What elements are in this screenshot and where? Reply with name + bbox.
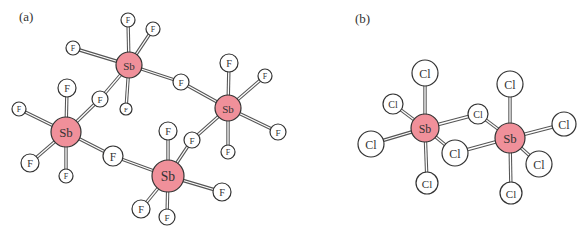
atom-symbol: F <box>189 136 194 146</box>
atom-symbol: F <box>126 16 131 25</box>
molecular-structure-diagram: (a) FFFFFFFFFFFFFFFFFFFFSbSbSbSb (b) ClC… <box>0 0 588 235</box>
atom-symbol: F <box>275 128 280 138</box>
panel-b: (b) ClClClClClClClClClClSbSb <box>355 11 576 204</box>
atom-symbol: Cl <box>504 78 516 92</box>
fluorine-atom: F <box>92 91 108 107</box>
antimony-atom: Sb <box>411 114 439 142</box>
fluorine-atom: F <box>159 122 177 140</box>
fluorine-atom: F <box>213 183 231 201</box>
fluorine-atom: F <box>146 22 160 36</box>
atom-symbol: Cl <box>449 147 461 161</box>
atom-symbol: F <box>178 78 183 88</box>
atom-symbol: F <box>110 151 116 163</box>
atom-symbol: Sb <box>59 126 73 140</box>
atom-symbol: F <box>226 58 232 69</box>
antimony-atom: Sb <box>116 52 142 78</box>
chlorine-atom: Cl <box>552 112 576 136</box>
atom-symbol: Cl <box>533 158 545 172</box>
fluorine-atom: F <box>221 145 235 159</box>
atom-symbol: Cl <box>473 109 483 120</box>
chlorine-atom: Cl <box>497 71 523 97</box>
panel-b-label: (b) <box>355 11 370 26</box>
fluorine-atom: F <box>173 74 189 90</box>
chlorine-atom: Cl <box>442 140 468 166</box>
fluorine-atom: F <box>12 102 26 116</box>
antimony-atom: Sb <box>152 160 184 192</box>
atom-symbol: Sb <box>503 132 517 146</box>
atom-symbol: F <box>97 95 102 105</box>
fluorine-atom: F <box>258 69 272 83</box>
atom-symbol: F <box>219 187 225 198</box>
atom-symbol: F <box>27 158 33 169</box>
atom-symbol: F <box>64 83 70 94</box>
fluorine-atom: F <box>66 41 80 55</box>
antimony-atom: Sb <box>495 123 525 153</box>
fluorine-atom: F <box>159 209 175 225</box>
fluorine-atom: F <box>120 103 132 115</box>
atom-symbol: Cl <box>388 99 398 110</box>
fluorine-atom: F <box>103 146 123 166</box>
fluorine-atom: F <box>132 200 150 218</box>
atom-symbol: Sb <box>222 103 234 115</box>
fluorine-atom: F <box>184 132 200 148</box>
fluorine-atom: F <box>220 54 238 72</box>
atom-symbol: F <box>263 72 268 81</box>
chlorine-atom: Cl <box>416 172 438 194</box>
panel-a-label: (a) <box>19 9 33 24</box>
antimony-atom: Sb <box>51 117 81 147</box>
atom-symbol: Cl <box>558 118 570 132</box>
panel-a: (a) FFFFFFFFFFFFFFFFFFFFSbSbSbSb <box>12 9 286 225</box>
chlorine-atom: Cl <box>526 151 552 177</box>
fluorine-atom: F <box>58 79 76 97</box>
atom-symbol: F <box>64 172 69 181</box>
panel-b-atoms: ClClClClClClClClClClSbSb <box>358 60 576 204</box>
atom-symbol: F <box>164 213 169 223</box>
atom-symbol: F <box>138 204 144 215</box>
atom-symbol: Sb <box>419 122 432 136</box>
atom-symbol: F <box>226 148 231 157</box>
fluorine-atom: F <box>59 169 73 183</box>
chlorine-atom: Cl <box>358 131 384 157</box>
atom-symbol: F <box>124 106 128 114</box>
atom-symbol: Cl <box>506 188 516 200</box>
panel-a-bonds <box>19 20 278 217</box>
antimony-atom: Sb <box>215 95 241 121</box>
chlorine-atom: Cl <box>383 94 403 114</box>
chlorine-atom: Cl <box>412 60 438 86</box>
atom-symbol: F <box>17 105 22 114</box>
fluorine-atom: F <box>270 124 286 140</box>
atom-symbol: Sb <box>123 60 135 72</box>
atom-symbol: Cl <box>365 138 377 152</box>
atom-symbol: F <box>151 25 156 34</box>
atom-symbol: Sb <box>161 169 176 184</box>
fluorine-atom: F <box>21 154 39 172</box>
atom-symbol: Cl <box>422 178 432 190</box>
atom-symbol: F <box>165 126 171 137</box>
panel-a-atoms: FFFFFFFFFFFFFFFFFFFFSbSbSbSb <box>12 13 286 225</box>
chlorine-atom: Cl <box>468 104 488 124</box>
atom-symbol: F <box>71 44 76 53</box>
fluorine-atom: F <box>121 13 135 27</box>
chlorine-atom: Cl <box>500 182 522 204</box>
atom-symbol: Cl <box>419 67 431 81</box>
